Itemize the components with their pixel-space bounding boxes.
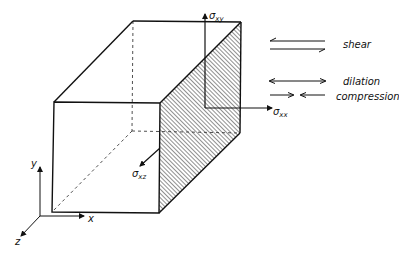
z-axis-label: z [14,236,21,247]
x-axis-label: x [87,213,94,224]
legend-compression-label: compression [336,91,399,102]
legend [270,38,325,95]
legend-dilation-label: dilation [343,76,380,87]
legend-shear-label: shear [343,39,372,50]
y-axis-label: y [30,158,38,169]
shaded-side-face [159,22,241,213]
stress-block-diagram: σxy σxx σxz y x z shear dilation compres… [0,0,399,253]
sigma-xz-arrow [140,148,160,166]
shear-arrow-icon [270,38,325,52]
sigma-xz-label: σxz [132,168,146,181]
sigma-xx-label: σxx [273,106,288,119]
z-axis [21,216,40,236]
